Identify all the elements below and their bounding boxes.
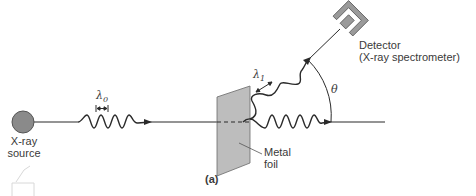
faint-artifact — [12, 166, 34, 196]
metal-foil-shape — [217, 86, 250, 176]
lambda1-subscript: 1 — [260, 74, 265, 83]
angle-arc — [308, 60, 331, 122]
detector-label-line2: (X-ray spectrometer) — [359, 51, 460, 63]
lambda1-label: λ1 — [253, 69, 265, 85]
detector-label: Detector (X-ray spectrometer) — [359, 39, 460, 63]
metal-foil-label-line1: Metal — [264, 146, 291, 158]
compton-scattering-diagram: X-ray source λ0 λ1 θ Detector (X-ray spe… — [0, 0, 476, 196]
xray-source-label-line2: source — [3, 147, 45, 159]
lambda0-label: λ0 — [96, 90, 108, 106]
incident-beam — [33, 115, 234, 128]
lambda0-symbol: λ — [96, 89, 103, 102]
diagram-graphics — [0, 0, 476, 196]
incident-arrowhead — [144, 119, 152, 125]
lambda0-subscript: 0 — [103, 95, 108, 104]
panel-label: (a) — [205, 173, 218, 185]
lambda1-symbol: λ — [253, 68, 260, 81]
xray-source-icon — [12, 111, 34, 133]
xray-source-label-line1: X-ray — [3, 135, 45, 147]
detector-label-line1: Detector — [359, 39, 460, 51]
metal-foil-label-line2: foil — [264, 158, 291, 170]
scattered-arrowhead — [303, 57, 311, 65]
metal-foil-label: Metal foil — [264, 146, 291, 170]
transmitted-beam — [243, 115, 385, 128]
xray-source-label: X-ray source — [3, 135, 45, 159]
theta-label: θ — [331, 84, 338, 96]
